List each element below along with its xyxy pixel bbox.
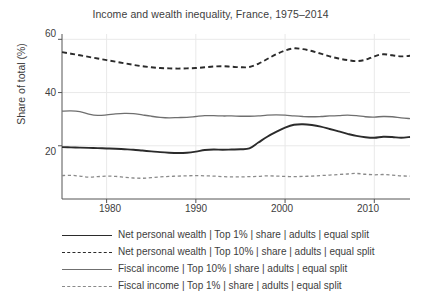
legend-item-label: Net personal wealth | Top 1% | share | a… — [118, 229, 369, 241]
series-line-1 — [62, 48, 410, 68]
legend-item[interactable]: Fiscal income | Top 10% | share | adults… — [62, 260, 412, 277]
series-line-3 — [62, 173, 410, 178]
data-series-group — [62, 48, 410, 178]
legend-line-sample-icon — [62, 280, 112, 292]
chart-figure: Income and wealth inequality, France, 19… — [0, 0, 421, 303]
legend-item[interactable]: Net personal wealth | Top 1% | share | a… — [62, 226, 412, 243]
legend-line-sample-icon — [62, 246, 112, 258]
legend-line-sample-icon — [62, 229, 112, 241]
legend-item-label: Fiscal income | Top 1% | share | adults … — [118, 280, 342, 292]
series-line-0 — [62, 124, 410, 153]
legend-item[interactable]: Fiscal income | Top 1% | share | adults … — [62, 277, 412, 294]
series-line-2 — [62, 111, 410, 119]
legend-item[interactable]: Net personal wealth | Top 10% | share | … — [62, 243, 412, 260]
legend-line-sample-icon — [62, 263, 112, 275]
chart-legend: Net personal wealth | Top 1% | share | a… — [62, 226, 412, 294]
legend-item-label: Net personal wealth | Top 10% | share | … — [118, 246, 374, 258]
axis-ticks — [58, 39, 374, 203]
legend-item-label: Fiscal income | Top 10% | share | adults… — [118, 263, 347, 275]
